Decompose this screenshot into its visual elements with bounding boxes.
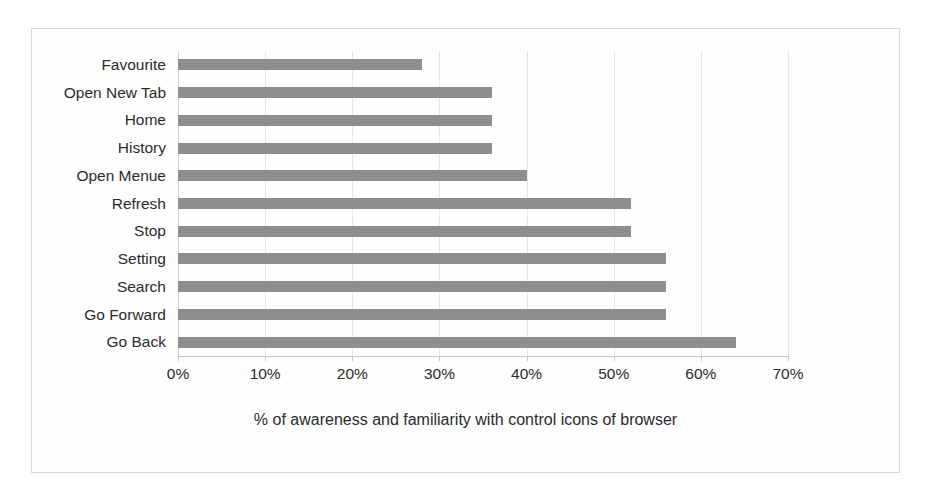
x-tick (265, 356, 266, 361)
y-axis-category-labels: FavouriteOpen New TabHomeHistoryOpen Men… (32, 51, 174, 356)
x-tick-label: 20% (337, 365, 368, 383)
bar-row (178, 301, 788, 329)
x-tick (439, 356, 440, 361)
bar (178, 143, 492, 154)
x-tick-label: 60% (685, 365, 716, 383)
gridline-70 (788, 51, 789, 356)
bar (178, 309, 666, 320)
y-axis-label: Search (117, 273, 166, 301)
bar-row (178, 328, 788, 356)
x-tick-label: 10% (250, 365, 281, 383)
y-axis-label: Setting (118, 245, 166, 273)
x-tick-label: 30% (424, 365, 455, 383)
bar-row (178, 273, 788, 301)
bar (178, 59, 422, 70)
y-axis-label: Refresh (112, 190, 166, 218)
bar-row (178, 217, 788, 245)
x-tick (614, 356, 615, 361)
y-axis-label: Open Menue (76, 162, 166, 190)
bar-row (178, 245, 788, 273)
y-axis-label: History (118, 134, 166, 162)
bar (178, 253, 666, 264)
x-tick-label: 50% (598, 365, 629, 383)
x-tick (701, 356, 702, 361)
bar-row (178, 134, 788, 162)
y-axis-label: Go Forward (84, 301, 166, 329)
chart-frame: FavouriteOpen New TabHomeHistoryOpen Men… (31, 28, 900, 473)
x-tick-label: 40% (511, 365, 542, 383)
bar (178, 337, 736, 348)
plot-area (178, 51, 788, 356)
y-axis-label: Go Back (107, 328, 166, 356)
x-tick (178, 356, 179, 361)
bar-row (178, 106, 788, 134)
x-tick (352, 356, 353, 361)
x-axis-line (178, 356, 789, 357)
bar (178, 87, 492, 98)
bar-row (178, 51, 788, 79)
bar (178, 281, 666, 292)
x-tick (788, 356, 789, 361)
y-axis-label: Favourite (101, 51, 166, 79)
x-tick (527, 356, 528, 361)
x-tick-label: 70% (772, 365, 803, 383)
x-axis-title: % of awareness and familiarity with cont… (32, 411, 899, 429)
bar-row (178, 190, 788, 218)
y-axis-label: Open New Tab (64, 79, 166, 107)
bar-row (178, 79, 788, 107)
y-axis-label: Home (125, 106, 166, 134)
bar-series (178, 51, 788, 356)
y-axis-label: Stop (134, 217, 166, 245)
bar (178, 170, 527, 181)
bar (178, 198, 631, 209)
bar-row (178, 162, 788, 190)
x-tick-label: 0% (167, 365, 189, 383)
bar (178, 226, 631, 237)
bar (178, 115, 492, 126)
